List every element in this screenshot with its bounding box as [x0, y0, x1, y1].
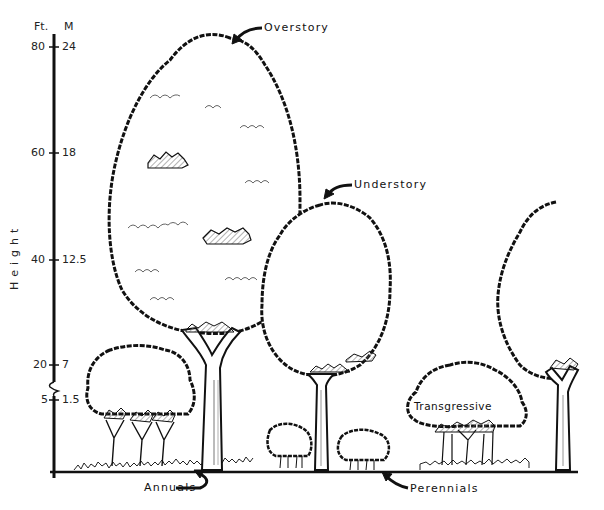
axis-title: Height — [8, 224, 21, 290]
tick-ft-40: 40 — [31, 253, 45, 266]
label-annuals: Annuals — [144, 481, 196, 494]
axis-unit-feet: Ft. — [34, 20, 48, 33]
tick-m-12-5: 12.5 — [62, 253, 87, 266]
left-shrub-group — [87, 346, 195, 467]
transgressive-tree — [408, 362, 527, 465]
right-overstory-tree — [498, 202, 578, 470]
label-perennials: Perennials — [410, 482, 479, 495]
tick-m-18: 18 — [62, 146, 76, 159]
tick-m-24: 24 — [62, 40, 76, 53]
label-transgressive: Transgressive — [414, 400, 492, 412]
tick-m-7: 7 — [62, 358, 69, 371]
label-overstory: Overstory — [264, 21, 329, 34]
tick-ft-80: 80 — [31, 40, 45, 53]
tick-m-1-5: 1.5 — [62, 393, 80, 406]
tick-ft-5: 5 — [41, 393, 48, 406]
forest-strata-drawing — [0, 0, 604, 510]
axis-unit-meters: M — [64, 20, 74, 33]
height-axis — [49, 34, 59, 478]
tick-ft-60: 60 — [31, 146, 45, 159]
label-understory: Understory — [354, 178, 427, 191]
tick-ft-20: 20 — [33, 358, 47, 371]
